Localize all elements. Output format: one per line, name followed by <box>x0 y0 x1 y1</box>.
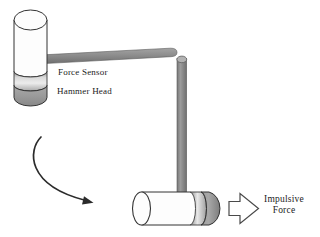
lower-hammer <box>133 192 220 225</box>
handle-rod <box>44 48 177 63</box>
hammer-impulse-diagram: Force Sensor Hammer Head Impulsive Force <box>0 0 320 237</box>
impulsive-force-label: Impulsive Force <box>255 194 313 216</box>
upper-hammer <box>14 10 47 106</box>
hammer-top-face <box>14 10 47 30</box>
rotation-arrow-icon <box>34 137 94 205</box>
rod-joint-cap-icon <box>177 56 187 63</box>
pivot-rod <box>177 59 187 194</box>
lower-hammer-left-face <box>133 192 151 225</box>
force-sensor-label: Force Sensor <box>58 67 108 77</box>
lower-force-sensor-band <box>190 192 207 225</box>
impulsive-force-line2: Force <box>255 205 313 216</box>
hammer-head-label: Hammer Head <box>57 86 112 96</box>
rotation-arrow-head <box>82 196 94 204</box>
rotation-arrow-curve <box>34 137 85 200</box>
impulsive-force-line1: Impulsive <box>255 194 313 205</box>
